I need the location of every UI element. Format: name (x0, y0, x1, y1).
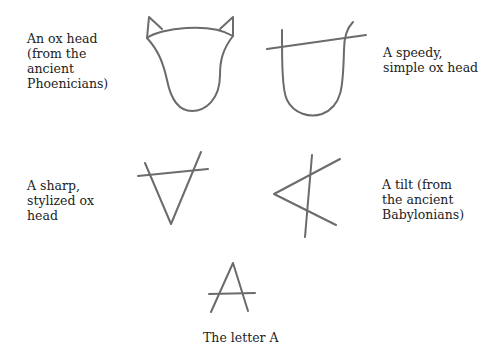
phoenician-ox-head-icon (147, 17, 233, 111)
sharp-ox-head-icon (138, 152, 208, 224)
tilt-ox-head-icon (274, 155, 340, 237)
drawings (0, 0, 492, 353)
speedy-ox-head-icon (267, 22, 366, 115)
letter-a-icon (209, 263, 255, 312)
